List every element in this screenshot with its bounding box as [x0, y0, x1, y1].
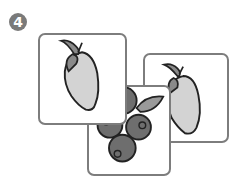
card-mango-1[interactable]	[38, 33, 127, 125]
mango-icon	[40, 35, 125, 123]
step-number-badge: 4	[9, 13, 27, 31]
